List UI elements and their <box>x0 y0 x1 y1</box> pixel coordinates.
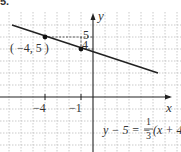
point-label: ( −4, 5 ) <box>10 42 49 54</box>
tick-label-4: 4 <box>82 39 88 51</box>
problem-number: 5. <box>0 0 9 7</box>
equation-numerator: 1 <box>146 117 151 127</box>
y-axis-label: y <box>98 9 104 22</box>
x-axis-arrow-icon <box>165 95 172 100</box>
tick-label-neg1: −1 <box>69 102 82 114</box>
y-axis-arrow-icon <box>91 13 96 20</box>
equation-denominator: 3 <box>146 131 151 141</box>
x-axis-label: x <box>166 101 172 114</box>
equation-right: (x + 4 <box>153 124 181 136</box>
tick-label-neg4: −4 <box>33 102 46 114</box>
equation-left: y − 5 = − <box>103 124 151 136</box>
point-neg4-5 <box>43 35 48 40</box>
